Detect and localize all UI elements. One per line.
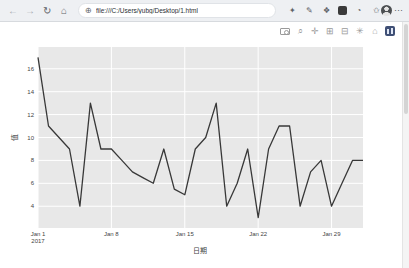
reset-axes-icon[interactable]: ⌂ — [370, 26, 380, 36]
y-tick-label: 6 — [31, 180, 35, 186]
y-tick-label: 12 — [27, 112, 34, 118]
x-tick-label: Jan 22 — [249, 231, 268, 237]
extension-icon-6[interactable]: ✩ — [371, 7, 381, 15]
scrollbar-thumb[interactable] — [404, 24, 408, 114]
page-globe-icon: ⊕ — [85, 7, 92, 15]
autoscale-icon[interactable]: ✳ — [355, 26, 365, 36]
refresh-icon[interactable]: ↻ — [40, 4, 54, 18]
url-text: file:///C:/Users/yubg/Desktop/1.html — [96, 7, 198, 14]
extensions-row: ✦✎❖◔✩ — [287, 6, 381, 15]
pan-icon[interactable]: ✛ — [310, 26, 320, 36]
x-tick-label: Jan 1 — [31, 231, 46, 237]
zoom-in-icon[interactable]: ⊞ — [325, 26, 335, 36]
extension-icon-3[interactable]: ❖ — [321, 7, 331, 15]
y-tick-label: 16 — [27, 66, 34, 72]
browser-toolbar: ← → ↻ ⌂ ⊕ file:///C:/Users/yubg/Desktop/… — [0, 0, 409, 22]
profile-avatar[interactable] — [381, 5, 392, 16]
x-tick-label: Jan 8 — [104, 231, 119, 237]
address-bar[interactable]: ⊕ file:///C:/Users/yubg/Desktop/1.html — [78, 3, 276, 18]
y-axis-title: 值 — [10, 134, 19, 141]
extension-icon-5[interactable]: ◔ — [354, 7, 364, 15]
y-tick-label: 4 — [31, 203, 35, 209]
x-tick-labels: Jan 12017Jan 8Jan 15Jan 22Jan 29 — [31, 231, 342, 244]
page-content: ⌕✛⊞⊟✳⌂ 46810121416 Jan 12017Jan 8Jan 15J… — [0, 22, 409, 268]
y-tick-label: 8 — [31, 157, 35, 163]
extension-icon-2[interactable]: ✎ — [304, 7, 314, 15]
extension-icon-1[interactable]: ✦ — [287, 7, 297, 15]
zoom-out-icon[interactable]: ⊟ — [340, 26, 350, 36]
y-tick-label: 10 — [27, 135, 34, 141]
plotly-modebar: ⌕✛⊞⊟✳⌂ — [280, 26, 395, 36]
page-scrollbar[interactable] — [402, 22, 409, 268]
chart-svg: 46810121416 Jan 12017Jan 8Jan 15Jan 22Ja… — [0, 22, 409, 268]
browser-window: ← → ↻ ⌂ ⊕ file:///C:/Users/yubg/Desktop/… — [0, 0, 409, 268]
forward-icon[interactable]: → — [23, 4, 37, 18]
download-plot-camera-icon[interactable] — [280, 28, 290, 35]
x-tick-label: Jan 29 — [323, 231, 342, 237]
plotly-logo-icon[interactable] — [385, 26, 395, 36]
x-tick-label: Jan 15 — [176, 231, 195, 237]
zoom-icon[interactable]: ⌕ — [295, 26, 305, 36]
back-icon[interactable]: ← — [6, 4, 20, 18]
extension-icon-4[interactable] — [338, 6, 347, 15]
x-tick-sublabel: 2017 — [31, 238, 45, 244]
home-icon[interactable]: ⌂ — [57, 4, 71, 18]
y-tick-label: 14 — [27, 89, 34, 95]
y-tick-labels: 46810121416 — [27, 66, 34, 209]
browser-menu-icon[interactable]: ⋯ — [394, 6, 403, 16]
x-axis-title: 日期 — [193, 247, 207, 255]
